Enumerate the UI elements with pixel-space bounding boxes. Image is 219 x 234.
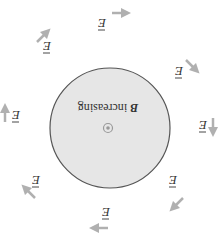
e-field-label: E [199, 118, 208, 133]
e-field-label: E [169, 173, 178, 188]
diagram-canvas: B increasing E E E E E E [0, 0, 219, 234]
magnetic-field-region [50, 68, 170, 188]
region-caption: B increasing [78, 101, 139, 115]
e-field-label: E [32, 173, 41, 188]
induced-electric-field-diagram: B increasing E E E E E E [0, 0, 219, 234]
e-field-label: E [98, 16, 107, 31]
e-field-label: E [102, 205, 111, 220]
e-field-arrow [186, 60, 196, 70]
e-field-label: E [12, 108, 21, 123]
e-field-label: E [43, 39, 52, 54]
e-field-arrow [173, 198, 183, 208]
e-field-label: E [175, 64, 184, 79]
e-field-arrow [25, 188, 35, 198]
